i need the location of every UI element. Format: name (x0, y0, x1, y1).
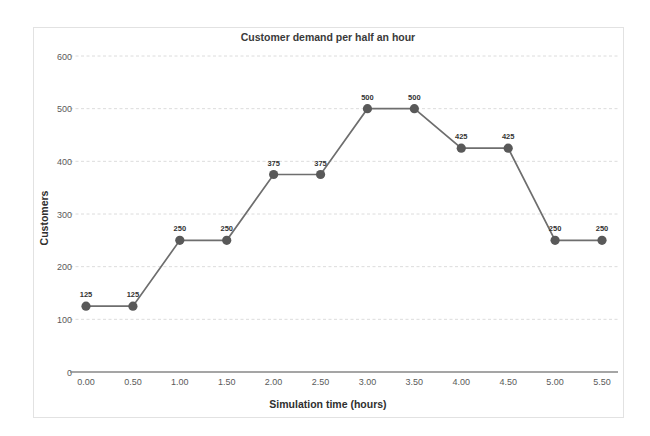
data-point-marker (550, 236, 559, 245)
data-point-label: 425 (502, 132, 515, 141)
x-tick-label: 2.00 (265, 377, 283, 387)
chart-title: Customer demand per half an hour (241, 31, 415, 43)
data-point-marker (128, 302, 137, 311)
y-tick-label: 200 (57, 262, 72, 272)
data-point-label: 250 (596, 224, 609, 233)
data-point-marker (269, 170, 278, 179)
x-tick-label: 5.00 (546, 377, 564, 387)
data-point-marker (457, 144, 466, 153)
data-point-label: 250 (549, 224, 562, 233)
x-tick-label: 1.00 (171, 377, 189, 387)
x-tick-label: 1.50 (218, 377, 236, 387)
x-tick-label: 3.00 (359, 377, 377, 387)
data-point-label: 125 (80, 290, 93, 299)
data-point-marker (316, 170, 325, 179)
line-chart: Customer demand per half an hour 0100200… (0, 0, 650, 436)
y-tick-label: 100 (57, 315, 72, 325)
x-tick-label: 0.00 (77, 377, 95, 387)
data-point-marker (222, 236, 231, 245)
data-point-marker (175, 236, 184, 245)
data-point-label: 425 (455, 132, 468, 141)
y-tick-label: 300 (57, 210, 72, 220)
data-point-marker (597, 236, 606, 245)
x-tick-label: 4.00 (453, 377, 471, 387)
data-point-marker (363, 104, 372, 113)
y-axis-title: Customers (38, 190, 50, 245)
data-point-label: 500 (408, 93, 421, 102)
data-point-marker (81, 302, 90, 311)
data-point-marker (504, 144, 513, 153)
y-tick-label: 400 (57, 157, 72, 167)
y-tick-label: 600 (57, 52, 72, 62)
series-line-customer-demand (86, 109, 602, 307)
data-point-label: 250 (220, 224, 233, 233)
x-axis-tick-labels: 0.000.501.001.502.002.503.003.504.004.50… (77, 377, 611, 387)
x-tick-label: 5.50 (593, 377, 611, 387)
x-tick-label: 2.50 (312, 377, 330, 387)
series-markers (81, 104, 606, 311)
x-axis-title: Simulation time (hours) (269, 398, 386, 410)
data-point-marker (410, 104, 419, 113)
data-point-label: 125 (127, 290, 140, 299)
data-point-label: 375 (267, 159, 280, 168)
x-tick-label: 3.50 (406, 377, 424, 387)
data-point-label: 250 (174, 224, 187, 233)
x-tick-label: 0.50 (124, 377, 142, 387)
data-point-label: 375 (314, 159, 327, 168)
data-point-label: 500 (361, 93, 374, 102)
x-tick-label: 4.50 (499, 377, 517, 387)
y-tick-label: 500 (57, 104, 72, 114)
y-axis-tick-labels: 0100200300400500600 (57, 52, 72, 378)
